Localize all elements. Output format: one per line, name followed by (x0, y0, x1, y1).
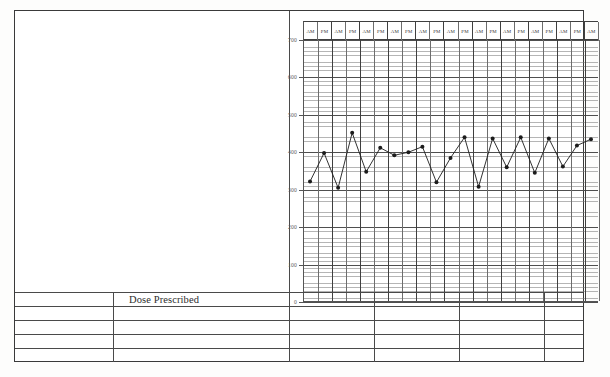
ampm-cell-18: PM (543, 22, 557, 41)
y-axis-tick-labels: 700 600 500 400 300 200 100 0 (273, 40, 301, 302)
data-point-5 (364, 170, 368, 174)
ampm-cell-21: AM (585, 22, 599, 41)
table-row (15, 334, 583, 335)
lower-table-col-divider-2 (289, 292, 290, 362)
series-polyline-0 (310, 133, 591, 188)
data-point-10 (434, 180, 438, 184)
ampm-cell-13: AM (473, 22, 487, 41)
ampm-cell-6: PM (374, 22, 388, 41)
y-tick-600: 600 (288, 74, 297, 80)
table-row (15, 306, 583, 307)
data-point-17 (533, 171, 537, 175)
ampm-cell-15: AM (501, 22, 515, 41)
ampm-cell-12: PM (459, 22, 473, 41)
ampm-cell-4: PM (346, 22, 360, 41)
lower-table-col-divider-5 (544, 292, 545, 362)
chart-form-frame: 700 600 500 400 300 200 100 0 AMPMAMPMAM… (14, 10, 584, 362)
data-point-13 (477, 185, 481, 189)
ampm-cell-7: AM (388, 22, 402, 41)
column-line-21 (599, 40, 600, 301)
data-point-12 (463, 135, 467, 139)
y-tick-700: 700 (288, 37, 297, 43)
data-point-3 (336, 186, 340, 190)
ampm-cell-3: AM (332, 22, 346, 41)
data-point-20 (575, 144, 579, 148)
dose-prescribed-label: Dose Prescribed (129, 294, 199, 305)
ampm-cell-2: PM (318, 22, 332, 41)
data-point-9 (420, 145, 424, 149)
data-point-19 (561, 165, 565, 169)
data-point-1 (308, 179, 312, 183)
table-row (15, 320, 583, 321)
data-point-4 (350, 131, 354, 135)
y-tick-300: 300 (288, 187, 297, 193)
ampm-cell-17: AM (529, 22, 543, 41)
ampm-cell-20: PM (571, 22, 585, 41)
ampm-cell-14: PM (487, 22, 501, 41)
y-tick-200: 200 (288, 224, 297, 230)
data-point-18 (547, 136, 551, 140)
data-point-2 (322, 151, 326, 155)
ampm-cell-19: AM (557, 22, 571, 41)
data-point-21 (589, 137, 593, 141)
y-tick-500: 500 (288, 112, 297, 118)
observation-chart: 700 600 500 400 300 200 100 0 AMPMAMPMAM… (303, 21, 598, 302)
data-point-14 (491, 136, 495, 140)
ampm-cell-9: AM (416, 22, 430, 41)
data-point-7 (392, 153, 396, 157)
y-tick-100: 100 (288, 262, 297, 268)
ampm-header-row: AMPMAMPMAMPMAMPMAMPMAMPMAMPMAMPMAMPMAMPM… (303, 21, 598, 40)
table-row (15, 292, 583, 293)
ampm-cell-16: PM (515, 22, 529, 41)
ampm-cell-10: PM (430, 22, 444, 41)
lower-table (15, 292, 583, 362)
data-point-16 (519, 135, 523, 139)
data-point-8 (406, 150, 410, 154)
data-point-6 (378, 146, 382, 150)
lower-table-col-divider-4 (459, 292, 460, 362)
data-point-15 (505, 165, 509, 169)
observation-series-line (303, 40, 598, 302)
ampm-cell-5: AM (360, 22, 374, 41)
data-point-11 (449, 156, 453, 160)
ampm-cell-11: AM (444, 22, 458, 41)
table-row (15, 348, 583, 349)
y-tick-400: 400 (288, 149, 297, 155)
lower-table-col-divider-3 (374, 292, 375, 362)
ampm-cell-1: AM (304, 22, 318, 41)
lower-table-col-divider-1 (113, 292, 114, 362)
ampm-cell-8: PM (402, 22, 416, 41)
